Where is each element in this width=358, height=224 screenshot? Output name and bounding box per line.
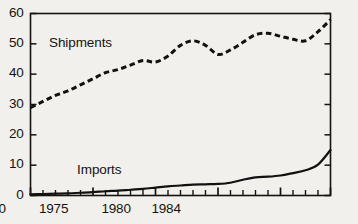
line-chart-canvas — [0, 0, 358, 224]
x-tick-label: 1975 — [39, 201, 68, 216]
series-line-imports — [31, 150, 331, 194]
y-tick-label: 30 — [9, 96, 24, 111]
y-tick-label: 20 — [9, 126, 24, 141]
series-label-imports: Imports — [77, 162, 121, 177]
chart-figure: 6050403020100 196019651970197519801984 S… — [0, 0, 358, 224]
y-tick-label: 0 — [16, 187, 23, 202]
series-label-shipments: Shipments — [49, 35, 112, 50]
y-tick-label: 50 — [9, 35, 24, 50]
y-tick-label: 10 — [9, 156, 24, 171]
y-tick-label: 60 — [9, 5, 24, 20]
x-tick-label: 1970 — [0, 201, 6, 216]
x-axis-ticks — [31, 188, 331, 196]
y-tick-label: 40 — [9, 65, 24, 80]
x-tick-label: 1980 — [102, 201, 131, 216]
series-line-shipments — [31, 20, 331, 108]
x-tick-label: 1984 — [152, 201, 181, 216]
